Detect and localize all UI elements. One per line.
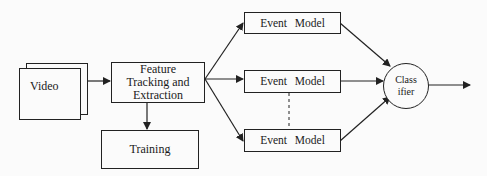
event-model-box-2: Event Model	[244, 70, 341, 93]
event-recognition-diagram: Video Feature Tracking and Extraction Tr…	[0, 0, 487, 176]
video-box: Video	[19, 68, 81, 120]
training-label: Training	[130, 143, 171, 156]
video-label: Video	[30, 80, 59, 93]
event-model-box-3: Event Model	[244, 129, 341, 152]
arrow-feature-to-event-3	[205, 79, 243, 141]
arrow-event-1-to-classifier	[340, 23, 390, 66]
event-model-label-3: Event Model	[260, 134, 325, 147]
training-box: Training	[101, 130, 199, 169]
arrow-event-3-to-classifier	[340, 97, 390, 141]
classifier-label-line-2: ifier	[398, 86, 415, 98]
classifier-label-line-1: Class	[395, 74, 417, 86]
classifier-node: Class ifier	[383, 63, 429, 109]
event-model-label-2: Event Model	[260, 75, 325, 88]
feature-label-line-3: Extraction	[133, 89, 183, 102]
event-model-box-1: Event Model	[244, 12, 341, 34]
event-model-label-1: Event Model	[260, 17, 325, 30]
arrow-feature-to-event-1	[205, 23, 243, 79]
feature-extraction-box: Feature Tracking and Extraction	[111, 62, 205, 103]
